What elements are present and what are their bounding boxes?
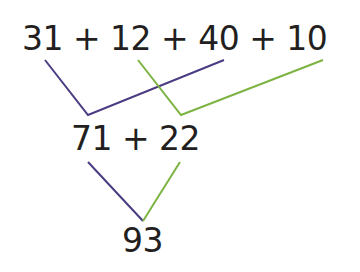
middle-expression: 71 + 22 (71, 122, 200, 155)
top-expression: 31 + 12 + 40 + 10 (22, 22, 327, 55)
purple-connector-71 (88, 162, 143, 221)
green-connector-22 (143, 162, 180, 221)
result: 93 (122, 224, 163, 257)
purple-connector-31-40 (45, 60, 224, 115)
green-connector-12-10 (138, 60, 323, 115)
